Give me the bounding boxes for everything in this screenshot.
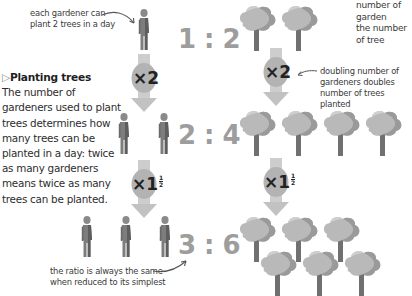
fraction: 12: [291, 173, 295, 186]
ratio-note-line: the ratio is always the same: [50, 266, 165, 277]
tree-icon: [237, 108, 277, 156]
ratio-left: 3: [178, 230, 196, 260]
curved-arrow-icon: [296, 68, 318, 78]
triangle-marker-icon: ▷: [2, 71, 10, 83]
doubling-note-line: gardeners doubles: [320, 77, 412, 88]
tree-icon: [279, 3, 319, 51]
ratio-row-2: 2:4: [178, 120, 241, 150]
doubling-note-line: doubling number of: [320, 66, 412, 77]
gardener-icon: [135, 8, 151, 52]
ratio-separator: :: [204, 24, 214, 54]
caption-line: means twice as many: [2, 176, 132, 191]
fraction-denominator: 2: [291, 180, 295, 186]
caption-line: The number of: [2, 85, 132, 100]
ratio-left: 2: [178, 120, 196, 150]
top-right-note: number of garden the number of tree: [356, 0, 412, 46]
multiplier-value: 2: [147, 68, 159, 88]
top-right-note-line: the number of tree: [356, 23, 412, 46]
multiplier-x1-half-left: ×112: [132, 174, 163, 194]
ratio-separator: :: [204, 120, 214, 150]
multiplier-value: 1: [146, 174, 158, 194]
curved-arrow-icon: [152, 258, 188, 274]
ratio-note-line: when reduced to its simplest: [50, 277, 165, 288]
top-right-note-line: number of garden: [356, 0, 412, 23]
caption-heading: ▷Planting trees: [2, 70, 132, 85]
multiplier-value: 1: [278, 172, 290, 192]
gardener-icon: [115, 112, 131, 156]
fraction: 12: [159, 175, 163, 188]
multiplier-prefix: ×: [133, 68, 147, 88]
ratio-separator: :: [204, 230, 214, 260]
multiplier-prefix: ×: [264, 172, 278, 192]
tree-icon: [237, 3, 277, 51]
caption-line: many trees can be: [2, 131, 132, 146]
gardener-icon: [156, 215, 172, 259]
multiplier-x2-right: ×2: [265, 62, 291, 82]
caption-line: as many gardeners: [2, 161, 132, 176]
gardener-icon: [78, 215, 94, 259]
caption-line: planted in a day: twice: [2, 146, 132, 161]
caption-line: gardeners used to plant: [2, 100, 132, 115]
planting-trees-caption: ▷Planting trees The number of gardeners …: [2, 70, 132, 207]
ratio-row-1: 1:2: [178, 24, 241, 54]
gardener-icon: [117, 215, 133, 259]
fraction-denominator: 2: [159, 182, 163, 188]
caption-line: trees determines how: [2, 116, 132, 131]
ratio-row-3: 3:6: [178, 230, 241, 260]
tree-icon: [279, 108, 319, 156]
tree-icon: [342, 248, 382, 296]
doubling-note: doubling number of gardeners doubles num…: [320, 66, 412, 110]
tree-icon: [321, 108, 361, 156]
multiplier-prefix: ×: [265, 62, 279, 82]
multiplier-x2-left: ×2: [133, 68, 159, 88]
multiplier-value: 2: [279, 62, 291, 82]
tree-icon: [300, 248, 340, 296]
curved-arrow-icon: [101, 10, 137, 28]
ratio-note: the ratio is always the same when reduce…: [50, 266, 165, 288]
gardener-icon: [155, 112, 171, 156]
doubling-note-line: number of trees planted: [320, 88, 412, 110]
caption-heading-text: Planting trees: [10, 71, 91, 83]
tree-icon: [258, 248, 298, 296]
multiplier-prefix: ×: [132, 174, 146, 194]
multiplier-x1-half-right: ×112: [264, 172, 295, 192]
caption-line: trees can be planted.: [2, 192, 132, 207]
ratio-left: 1: [178, 24, 196, 54]
tree-icon: [363, 108, 403, 156]
